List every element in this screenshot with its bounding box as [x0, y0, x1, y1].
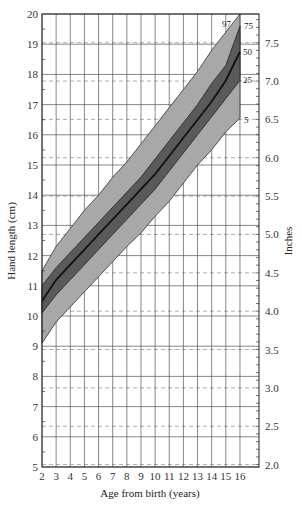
y-tick-label: 12 — [27, 250, 38, 262]
y2-axis-title: Inches — [282, 227, 294, 256]
y2-tick-label: 4.5 — [265, 267, 279, 279]
y-axis-title: Hand length (cm) — [5, 202, 18, 280]
percentile-label-5: 5 — [244, 115, 249, 125]
y-tick-label: 8 — [33, 370, 39, 382]
x-tick-label: 9 — [138, 470, 144, 482]
x-tick-label: 15 — [220, 470, 232, 482]
growth-chart: 5678910111213141516171819202.02.53.03.54… — [0, 0, 302, 506]
x-tick-label: 4 — [68, 470, 74, 482]
x-tick-label: 5 — [82, 470, 88, 482]
x-axis-title: Age from birth (years) — [100, 487, 200, 500]
y-tick-label: 18 — [27, 68, 39, 80]
y-tick-label: 6 — [33, 431, 39, 443]
percentile-label-25: 25 — [243, 75, 253, 85]
y-tick-label: 14 — [27, 189, 39, 201]
y2-tick-label: 6.0 — [265, 152, 279, 164]
y-tick-label: 11 — [27, 280, 38, 292]
y-tick-label: 16 — [27, 129, 39, 141]
y-tick-label: 10 — [27, 310, 39, 322]
percentile-label-50: 50 — [243, 47, 253, 57]
y2-tick-label: 3.0 — [265, 382, 279, 394]
x-tick-label: 6 — [96, 470, 102, 482]
percentile-label-97: 97 — [222, 19, 232, 29]
y2-tick-label: 7.5 — [265, 37, 279, 49]
x-tick-label: 11 — [164, 470, 175, 482]
x-tick-label: 16 — [234, 470, 246, 482]
y-tick-label: 15 — [27, 159, 39, 171]
x-tick-label: 14 — [206, 470, 218, 482]
y-tick-label: 7 — [33, 401, 39, 413]
y-tick-label: 13 — [27, 219, 39, 231]
percentile-label-75: 75 — [244, 21, 254, 31]
y2-tick-label: 7.0 — [265, 75, 279, 87]
y2-tick-label: 5.5 — [265, 190, 279, 202]
x-tick-label: 2 — [39, 470, 45, 482]
x-tick-label: 3 — [53, 470, 59, 482]
y2-tick-label: 2.0 — [265, 459, 279, 471]
x-tick-label: 10 — [150, 470, 162, 482]
x-tick-label: 8 — [124, 470, 130, 482]
y2-tick-label: 4.0 — [265, 305, 279, 317]
y-tick-label: 9 — [33, 340, 39, 352]
x-tick-label: 13 — [192, 470, 204, 482]
y2-tick-label: 6.5 — [265, 113, 279, 125]
y2-tick-label: 2.5 — [265, 420, 279, 432]
y-tick-label: 5 — [33, 461, 39, 473]
y2-tick-label: 5.0 — [265, 228, 279, 240]
x-tick-label: 7 — [110, 470, 116, 482]
x-tick-label: 12 — [178, 470, 189, 482]
y-tick-label: 19 — [27, 38, 39, 50]
y2-tick-label: 3.5 — [265, 344, 279, 356]
y-tick-label: 20 — [27, 8, 39, 20]
y-tick-label: 17 — [27, 99, 39, 111]
